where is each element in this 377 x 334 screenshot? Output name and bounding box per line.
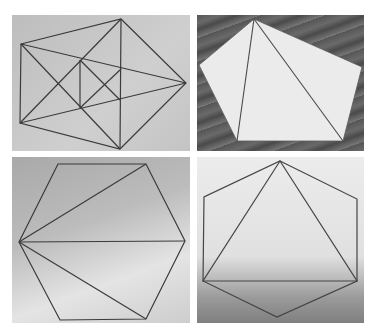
photo-paper-pentagon bbox=[197, 15, 364, 151]
photo-pentagon-diagonals bbox=[12, 15, 190, 151]
paper-pentagon-drawing bbox=[197, 15, 364, 151]
hexagon-triangulation-drawing bbox=[12, 157, 190, 323]
pentagon-diagonals-drawing bbox=[12, 15, 190, 151]
photo-hexagon-inscribed-triangle bbox=[197, 157, 364, 323]
hexagon-triangle-drawing bbox=[197, 157, 364, 323]
photo-hexagon-triangulation bbox=[12, 157, 190, 323]
